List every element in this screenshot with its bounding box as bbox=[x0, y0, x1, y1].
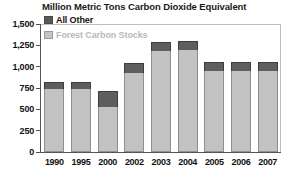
bar-segment-forest-carbon-stocks[interactable] bbox=[44, 89, 64, 152]
bar-group[interactable] bbox=[44, 24, 64, 152]
bar-segment-forest-carbon-stocks[interactable] bbox=[71, 89, 91, 152]
y-axis-tick-mark bbox=[36, 109, 40, 110]
bar-group[interactable] bbox=[71, 24, 91, 152]
bar-chart: Million Metric Tons Carbon Dioxide Equiv… bbox=[0, 0, 288, 180]
bar-group[interactable] bbox=[151, 24, 171, 152]
bar-segment-all-other[interactable] bbox=[98, 91, 118, 107]
x-axis-tick-label: 2005 bbox=[201, 157, 228, 167]
bar-stack bbox=[71, 82, 91, 152]
bar-segment-all-other[interactable] bbox=[258, 62, 278, 71]
x-axis-tick-label: 2003 bbox=[148, 157, 175, 167]
y-axis-tick-label: 750 bbox=[20, 83, 34, 93]
bar-segment-all-other[interactable] bbox=[44, 82, 64, 90]
bar-segment-forest-carbon-stocks[interactable] bbox=[204, 71, 224, 152]
x-axis-tick-label: 2006 bbox=[228, 157, 255, 167]
y-axis-tick-mark bbox=[36, 45, 40, 46]
legend-item-all-other: All Other bbox=[44, 13, 148, 26]
chart-title: Million Metric Tons Carbon Dioxide Equiv… bbox=[42, 1, 246, 12]
bar-group[interactable] bbox=[204, 24, 224, 152]
y-axis-tick-label: 500 bbox=[20, 104, 34, 114]
legend-item-forest-carbon-stocks: Forest Carbon Stocks bbox=[44, 28, 148, 41]
legend-label-forest-carbon-stocks: Forest Carbon Stocks bbox=[56, 30, 148, 40]
x-axis-tick-label: 2000 bbox=[94, 157, 121, 167]
bar-segment-forest-carbon-stocks[interactable] bbox=[151, 51, 171, 152]
y-axis-tick-mark bbox=[36, 152, 40, 153]
bar-stack bbox=[178, 41, 198, 152]
x-axis: 199019952000200220032004200520062007 bbox=[41, 153, 281, 173]
bar-segment-all-other[interactable] bbox=[178, 41, 198, 50]
bar-stack bbox=[231, 62, 251, 152]
bar-group[interactable] bbox=[178, 24, 198, 152]
bar-stack bbox=[124, 63, 144, 152]
y-axis-tick-mark bbox=[36, 88, 40, 89]
y-axis-tick-mark bbox=[36, 24, 40, 25]
chart-legend: All Other Forest Carbon Stocks bbox=[44, 13, 148, 43]
bar-series-group bbox=[41, 24, 281, 152]
bar-group[interactable] bbox=[98, 24, 118, 152]
dark-gray-swatch-icon bbox=[44, 16, 53, 24]
bar-stack bbox=[258, 62, 278, 152]
bar-stack bbox=[204, 62, 224, 152]
y-axis: 02505007501,0001,2501,500 bbox=[0, 24, 40, 153]
bar-group[interactable] bbox=[231, 24, 251, 152]
x-axis-tick-label: 2007 bbox=[254, 157, 281, 167]
y-axis-tick-label: 1,500 bbox=[12, 19, 34, 29]
y-axis-tick-label: 1,000 bbox=[12, 62, 34, 72]
bar-segment-all-other[interactable] bbox=[71, 82, 91, 90]
x-axis-tick-label: 2004 bbox=[174, 157, 201, 167]
bar-segment-all-other[interactable] bbox=[204, 62, 224, 71]
bar-stack bbox=[151, 42, 171, 152]
bar-stack bbox=[44, 82, 64, 152]
bar-group[interactable] bbox=[124, 24, 144, 152]
y-axis-tick-label: 0 bbox=[29, 147, 34, 157]
x-axis-tick-label: 1990 bbox=[41, 157, 68, 167]
bar-segment-forest-carbon-stocks[interactable] bbox=[231, 71, 251, 152]
x-axis-tick-label: 1995 bbox=[68, 157, 95, 167]
bar-segment-all-other[interactable] bbox=[231, 62, 251, 71]
bar-segment-forest-carbon-stocks[interactable] bbox=[178, 50, 198, 152]
bar-segment-all-other[interactable] bbox=[124, 63, 144, 73]
y-axis-tick-mark bbox=[36, 66, 40, 67]
y-axis-tick-mark bbox=[36, 130, 40, 131]
legend-label-all-other: All Other bbox=[56, 15, 93, 25]
bar-segment-forest-carbon-stocks[interactable] bbox=[258, 71, 278, 152]
bar-segment-all-other[interactable] bbox=[151, 42, 171, 51]
y-axis-tick-label: 1,250 bbox=[12, 40, 34, 50]
bar-segment-forest-carbon-stocks[interactable] bbox=[98, 107, 118, 152]
bar-segment-forest-carbon-stocks[interactable] bbox=[124, 73, 144, 152]
y-axis-tick-label: 250 bbox=[20, 126, 34, 136]
bar-stack bbox=[98, 91, 118, 152]
x-axis-tick-label: 2002 bbox=[121, 157, 148, 167]
light-gray-swatch-icon bbox=[44, 31, 53, 39]
bar-group[interactable] bbox=[258, 24, 278, 152]
